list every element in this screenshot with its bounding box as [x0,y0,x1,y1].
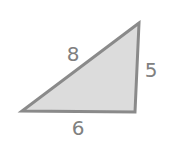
triangle-diagram: 8 5 6 [0,0,172,144]
triangle-polygon [22,23,139,112]
side-label-hypotenuse: 8 [63,44,83,64]
side-label-right: 5 [141,60,161,80]
side-label-base: 6 [68,118,88,138]
